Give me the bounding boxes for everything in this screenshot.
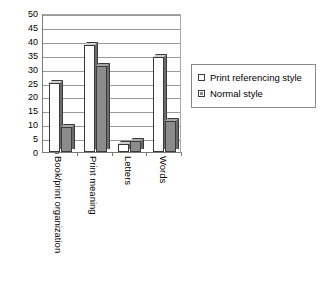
bars-layer bbox=[43, 15, 180, 152]
bar-face bbox=[118, 144, 129, 152]
y-axis-tick-label: 10 bbox=[16, 121, 38, 130]
legend-item-normal-style: Normal style bbox=[198, 87, 310, 100]
x-axis-tick-mark bbox=[77, 152, 78, 156]
x-axis-tick-mark bbox=[112, 152, 113, 156]
legend-label: Print referencing style bbox=[210, 72, 302, 83]
y-axis: 05101520253035404550 bbox=[16, 14, 38, 153]
bar-group bbox=[147, 15, 182, 152]
y-axis-tick-label: 0 bbox=[16, 149, 38, 158]
chart-legend: Print referencing style Normal style bbox=[191, 64, 316, 108]
bar bbox=[165, 121, 176, 152]
y-axis-tick-label: 50 bbox=[16, 10, 38, 19]
bar bbox=[118, 144, 129, 152]
y-axis-tick-label: 45 bbox=[16, 24, 38, 33]
bar bbox=[49, 83, 60, 153]
bar-group bbox=[113, 15, 148, 152]
filled-square-icon bbox=[198, 90, 205, 97]
bar-face bbox=[165, 121, 176, 152]
y-axis-tick-label: 25 bbox=[16, 80, 38, 89]
y-axis-tick-label: 5 bbox=[16, 135, 38, 144]
bar-face bbox=[153, 57, 164, 152]
bar-face bbox=[96, 66, 107, 152]
y-axis-tick-label: 35 bbox=[16, 52, 38, 61]
bar-group bbox=[78, 15, 113, 152]
bar-group bbox=[43, 15, 78, 152]
x-axis-tick-label: Words bbox=[158, 156, 168, 183]
y-axis-tick-label: 15 bbox=[16, 107, 38, 116]
bar-chart-figure: 05101520253035404550 Book/print organiza… bbox=[0, 0, 326, 291]
bar-face bbox=[61, 127, 72, 152]
x-axis-labels: Book/print organizationPrint meaningLett… bbox=[42, 156, 181, 276]
legend-item-print-referencing-style: Print referencing style bbox=[198, 71, 310, 84]
bar-face bbox=[49, 83, 60, 153]
x-axis-tick-label: Book/print organization bbox=[53, 156, 63, 253]
x-axis-tick-mark bbox=[181, 152, 182, 156]
bar-top-face bbox=[49, 80, 63, 83]
x-axis-tick-mark bbox=[146, 152, 147, 156]
x-axis-tick-label: Letters bbox=[123, 156, 133, 185]
y-axis-tick-label: 40 bbox=[16, 38, 38, 47]
bar-top-face bbox=[96, 63, 110, 66]
y-axis-tick-mark bbox=[55, 153, 59, 154]
bar-side-face bbox=[72, 124, 75, 149]
bar bbox=[61, 127, 72, 152]
bar-face bbox=[84, 45, 95, 152]
bar-side-face bbox=[107, 63, 110, 149]
y-axis-tick-label: 30 bbox=[16, 66, 38, 75]
hollow-square-icon bbox=[198, 74, 205, 81]
bar bbox=[153, 57, 164, 152]
y-axis-tick-label: 20 bbox=[16, 93, 38, 102]
bar bbox=[130, 141, 141, 152]
plot-area bbox=[42, 14, 181, 153]
x-axis-tick-label: Print meaning bbox=[88, 156, 98, 215]
bar bbox=[84, 45, 95, 152]
bar bbox=[96, 66, 107, 152]
legend-label: Normal style bbox=[210, 88, 263, 99]
bar-face bbox=[130, 141, 141, 152]
bar-side-face bbox=[176, 118, 179, 149]
